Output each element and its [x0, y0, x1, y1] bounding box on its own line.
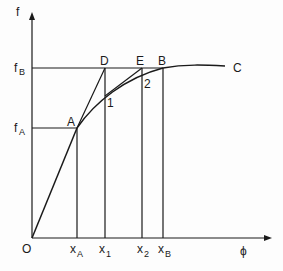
point-label-2: 2	[144, 77, 151, 91]
svg-text:A: A	[19, 127, 25, 137]
line-1E	[105, 68, 142, 96]
x-tick-xA: x A	[70, 242, 83, 259]
y-axis-label: f	[16, 5, 20, 19]
point-label-C: C	[233, 61, 242, 75]
svg-text:f: f	[14, 61, 18, 75]
svg-text:B: B	[19, 67, 25, 77]
point-label-1: 1	[107, 96, 114, 110]
x-axis-arrow-icon	[264, 235, 272, 241]
line-OA	[32, 128, 77, 238]
y-tick-fA: f A	[14, 121, 25, 137]
svg-text:2: 2	[144, 249, 149, 259]
origin-label: O	[22, 242, 31, 256]
point-label-E: E	[136, 54, 144, 68]
point-label-B: B	[158, 54, 166, 68]
point-label-D: D	[100, 54, 109, 68]
svg-text:x: x	[99, 242, 105, 256]
svg-text:1: 1	[106, 249, 111, 259]
svg-text:f: f	[14, 121, 18, 135]
svg-text:x: x	[137, 242, 143, 256]
line-AD	[77, 68, 105, 128]
x-tick-x2: x 2	[137, 242, 149, 259]
svg-text:B: B	[165, 249, 171, 259]
curve-ABC	[77, 65, 225, 128]
svg-text:x: x	[158, 242, 164, 256]
diagram-canvas: f ϕ O f B f A x A x 1 x 2 x B A D E B C …	[0, 0, 283, 271]
x-tick-x1: x 1	[99, 242, 111, 259]
point-label-A: A	[67, 115, 75, 129]
svg-text:A: A	[77, 249, 83, 259]
y-axis-arrow-icon	[29, 12, 35, 20]
y-tick-fB: f B	[14, 61, 25, 77]
x-axis-label: ϕ	[240, 244, 247, 258]
diagram-svg: f ϕ O f B f A x A x 1 x 2 x B A D E B C …	[0, 0, 283, 271]
x-tick-xB: x B	[158, 242, 171, 259]
svg-text:x: x	[70, 242, 76, 256]
